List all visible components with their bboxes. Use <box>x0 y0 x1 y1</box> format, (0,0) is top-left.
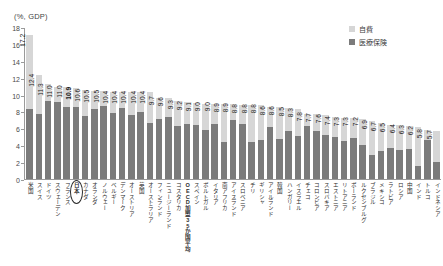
bar-segment-public <box>202 130 208 179</box>
x-axis-category-item: 韓国 <box>275 182 284 262</box>
bar-value-label: 8.8 <box>242 104 249 113</box>
bar-segment-public <box>341 141 347 179</box>
bar-series-container: 17.212.411.311.011.010.910.610.510.510.4… <box>25 28 441 179</box>
bar-value-label: 9.1 <box>186 102 193 111</box>
x-axis-category-item: ノルウェー <box>99 182 108 262</box>
bar-segment-public <box>350 138 356 179</box>
bar-stack: 10.4 <box>119 92 125 179</box>
bar-value-label: 8.3 <box>288 108 295 117</box>
bar-column: 8.6 <box>266 28 275 179</box>
bar-column: 5.8 <box>423 28 432 179</box>
x-axis-category-label: コロンビア <box>313 182 319 211</box>
x-axis-category-label: スペイン <box>193 182 199 205</box>
bar-value-label: 7.8 <box>297 113 304 122</box>
bar-value-label: 5.7 <box>427 130 434 139</box>
x-axis-category-label: ギリシャ <box>258 182 264 205</box>
y-axis-tick-mark <box>21 112 24 113</box>
bar-stack: 10.5 <box>100 91 106 179</box>
x-axis-category-label: ポルトガル <box>202 182 208 211</box>
bar-value-label: 9.6 <box>158 97 165 106</box>
x-axis-category-label: ラトビア <box>387 182 393 205</box>
bar-column: 5.7 <box>432 28 441 179</box>
plot-area: 024681012141618 17.212.411.311.011.010.9… <box>24 28 441 180</box>
x-axis-category-item: ギリシャ <box>256 182 265 262</box>
x-axis-category-item: アイスランド <box>229 182 238 262</box>
y-axis-tick-label: 12 <box>2 75 20 82</box>
bar-column: 11.3 <box>44 28 53 179</box>
y-axis-tick-label: 18 <box>2 25 20 32</box>
x-axis-category-item: インドネシア <box>432 182 441 262</box>
bar-stack: 7.7 <box>313 114 319 179</box>
x-axis-category-item: イタリア <box>210 182 219 262</box>
bar-segment-public <box>100 106 106 179</box>
x-axis-category-label: トルコ <box>424 182 430 199</box>
bar-segment-public <box>433 162 439 179</box>
bar-segment-public <box>295 136 301 179</box>
bar-value-label: 10.4 <box>140 91 147 104</box>
x-axis-category-item: ラトビア <box>386 182 395 262</box>
x-axis-category-label: ベルギー <box>110 182 116 205</box>
bar-value-label: 7.3 <box>343 117 350 126</box>
bar-value-label: 9.2 <box>177 101 184 110</box>
x-axis-category-label: 米国 <box>27 182 33 194</box>
x-axis-category-item: オランダ <box>90 182 99 262</box>
bar-stack: 11.0 <box>63 87 69 179</box>
bar-column: 8.5 <box>284 28 293 179</box>
y-axis-tick-label: 2 <box>2 160 20 167</box>
bar-segment-public <box>82 116 88 179</box>
bar-segment-public <box>165 117 171 179</box>
bar-stack: 8.6 <box>276 107 282 179</box>
x-axis-category-item: スウェーデン <box>53 182 62 262</box>
y-axis-tick-mark <box>21 28 24 29</box>
bar-stack: 9.2 <box>184 102 190 179</box>
x-axis-category-item: 南アフリカ <box>219 182 228 262</box>
bar-column: 11.0 <box>53 28 62 179</box>
x-axis-category-item: ハンガリー <box>284 182 293 262</box>
bar-segment-public <box>332 137 338 179</box>
x-axis-category-label: フィンランド <box>156 182 162 217</box>
bar-segment-public <box>239 124 245 179</box>
bar-segment-public <box>119 108 125 179</box>
bar-segment-public <box>359 145 365 179</box>
bar-segment-public <box>174 126 180 179</box>
x-axis-category-label: 英国 <box>138 182 144 194</box>
bar-value-label: 10.5 <box>94 90 101 103</box>
bar-column: 6.4 <box>395 28 404 179</box>
x-axis-category-item: リトアニア <box>340 182 349 262</box>
bar-segment-public <box>193 125 199 179</box>
bar-value-label: 7.6 <box>316 114 323 123</box>
bar-value-label: 7.7 <box>306 113 313 122</box>
bar-column: 8.6 <box>275 28 284 179</box>
bar-value-label: 8.6 <box>260 106 267 115</box>
bar-column: 6.2 <box>414 28 423 179</box>
x-axis-category-label: エストニア <box>332 182 338 211</box>
bar-segment-public <box>276 139 282 179</box>
x-axis-category-item: ベルギー <box>108 182 117 262</box>
x-axis-category-item: OECD加盟35か国平均 <box>182 182 191 262</box>
y-axis-tick-mark <box>21 79 24 80</box>
x-axis-category-label: 南アフリカ <box>221 182 227 211</box>
bar-stack: 8.6 <box>267 107 273 179</box>
bar-value-label: 7.3 <box>334 117 341 126</box>
bar-segment-public <box>63 107 69 179</box>
bar-stack: 10.5 <box>91 91 97 179</box>
x-axis-category-item: ドイツ <box>44 182 53 262</box>
bar-segment-public <box>54 102 60 179</box>
x-axis-category-label: ブラジル <box>369 182 375 205</box>
x-axis-category-label: チリ <box>249 182 255 194</box>
x-axis-category-label: ハンガリー <box>286 182 292 211</box>
bar-value-label: 7.2 <box>353 118 360 127</box>
y-axis-tick-label: 4 <box>2 143 20 150</box>
y-axis-tick-mark <box>21 180 24 181</box>
bar-stack: 8.8 <box>258 105 264 179</box>
x-axis-category-labels: 米国スイスドイツスウェーデンフランス日本カナダオランダノルウェーベルギーデンマー… <box>25 182 441 262</box>
bar-stack: 7.3 <box>350 118 356 179</box>
bar-segment-public <box>258 140 264 179</box>
bar-segment-public <box>396 150 402 179</box>
bar-column: 7.3 <box>340 28 349 179</box>
x-axis-category-label: ポーランド <box>350 182 356 211</box>
bar-segment-public <box>36 114 42 179</box>
bar-segment-public <box>221 142 227 179</box>
x-axis-category-item: チリ <box>247 182 256 262</box>
bar-value-label: 6.4 <box>390 124 397 133</box>
